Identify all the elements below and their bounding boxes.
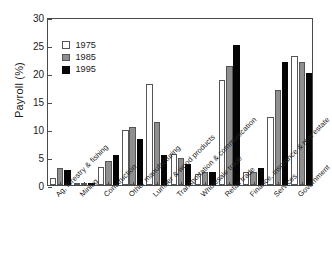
legend-item: 1975 <box>62 40 96 50</box>
legend-item: 1985 <box>62 52 96 62</box>
legend-item: 1995 <box>62 65 96 75</box>
y-axis-title: Payroll (%) <box>13 44 25 136</box>
legend-swatch-icon <box>62 66 70 74</box>
bar-group <box>121 19 145 185</box>
y-tick-label: 5 <box>18 155 48 163</box>
legend-label: 1985 <box>76 53 96 62</box>
bar-group <box>96 19 120 185</box>
legend-label: 1975 <box>76 41 96 50</box>
bar-group <box>241 19 265 185</box>
legend-swatch-icon <box>62 54 70 62</box>
y-tick-label: 30 <box>18 15 48 23</box>
y-tick-mark <box>48 187 52 188</box>
legend-label: 1995 <box>76 65 96 74</box>
y-tick-label: 20 <box>18 71 48 79</box>
bar-1975 <box>50 178 56 185</box>
y-tick-label: 15 <box>18 99 48 107</box>
bar-1985 <box>299 62 305 185</box>
y-tick-label: 10 <box>18 127 48 135</box>
chart-legend: 197519851995 <box>62 40 96 77</box>
bar-1975 <box>291 56 297 185</box>
y-tick-label: 25 <box>18 43 48 51</box>
bar-group <box>290 19 314 185</box>
legend-swatch-icon <box>62 41 70 49</box>
y-tick-label: 0 <box>18 183 48 191</box>
